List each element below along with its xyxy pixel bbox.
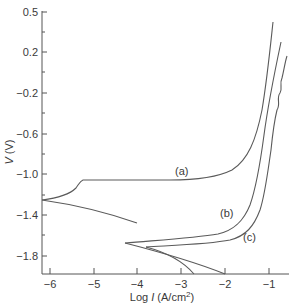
curve-c-label: (c) bbox=[243, 231, 256, 243]
y-tick-label: −1.0 bbox=[16, 168, 38, 180]
curve-a-cathodic bbox=[42, 200, 137, 223]
y-tick-label: −0.6 bbox=[16, 128, 38, 140]
x-tick-labels: −6 −5 −4 −3 −2 −1 bbox=[44, 278, 276, 290]
y-tick-label: −1.4 bbox=[16, 209, 38, 221]
x-ticks bbox=[50, 268, 269, 274]
y-tick-label: 0.2 bbox=[23, 46, 38, 58]
x-tick-label: −6 bbox=[44, 278, 57, 290]
curve-b-anodic bbox=[125, 42, 281, 243]
x-tick-label: −2 bbox=[219, 278, 232, 290]
x-axis-title: Log I (A/cm2) bbox=[130, 290, 194, 303]
y-axis-title: V (V) bbox=[3, 139, 15, 164]
curve-a-anodic bbox=[42, 22, 273, 200]
curve-b-label: (b) bbox=[220, 207, 233, 219]
curve-a-label: (a) bbox=[175, 165, 188, 177]
y-tick-label: −1.8 bbox=[16, 250, 38, 262]
y-ticks bbox=[42, 12, 47, 256]
y-tick-label: 0.5 bbox=[23, 6, 38, 18]
curve-a: (a) bbox=[42, 22, 273, 223]
polarization-chart: 0.5 0.2 −0.2 −0.6 −1.0 −1.4 −1.8 −6 −5 −… bbox=[0, 0, 295, 305]
x-tick-label: −4 bbox=[131, 278, 144, 290]
x-tick-label: −3 bbox=[175, 278, 188, 290]
curve-c: (c) bbox=[146, 56, 287, 274]
y-tick-labels: 0.5 0.2 −0.2 −0.6 −1.0 −1.4 −1.8 bbox=[16, 6, 38, 262]
curve-b: (b) bbox=[125, 42, 281, 274]
x-tick-label: −1 bbox=[263, 278, 276, 290]
y-tick-label: −0.2 bbox=[16, 87, 38, 99]
x-tick-label: −5 bbox=[88, 278, 101, 290]
